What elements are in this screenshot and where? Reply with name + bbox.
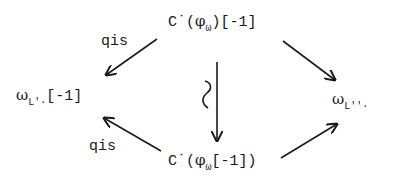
node-top-suffix: )[-1] xyxy=(212,14,257,31)
commutative-diagram: C˙(φω)[-1] ωL'·[-1] ωL''· C˙(φω[-1]) qis… xyxy=(0,0,399,189)
label-bottom-left-qis: qis xyxy=(89,139,116,154)
arrow-bottom-to-right xyxy=(281,124,337,158)
label-top-left-qis: qis xyxy=(101,34,128,49)
node-top-prefix: C˙( xyxy=(168,14,195,31)
node-bottom-prefix: C˙( xyxy=(168,153,195,170)
node-right: ωL''· xyxy=(332,92,368,108)
node-bottom-suffix: [-1]) xyxy=(212,153,257,170)
node-left-omega: ω xyxy=(16,86,28,104)
node-top-phi: φ xyxy=(195,12,206,30)
node-top: C˙(φω)[-1] xyxy=(168,14,257,30)
node-left-suffix: [-1] xyxy=(46,88,82,105)
node-bottom-phi: φ xyxy=(195,151,206,169)
node-right-sub: L''· xyxy=(344,101,368,112)
node-right-omega: ω xyxy=(332,90,344,108)
node-bottom: C˙(φω[-1]) xyxy=(168,153,257,169)
node-left: ωL'·[-1] xyxy=(16,88,82,104)
arrow-top-to-right xyxy=(283,41,335,80)
node-left-sub: L'· xyxy=(28,97,46,108)
isomorphism-squiggle-icon xyxy=(203,81,211,108)
